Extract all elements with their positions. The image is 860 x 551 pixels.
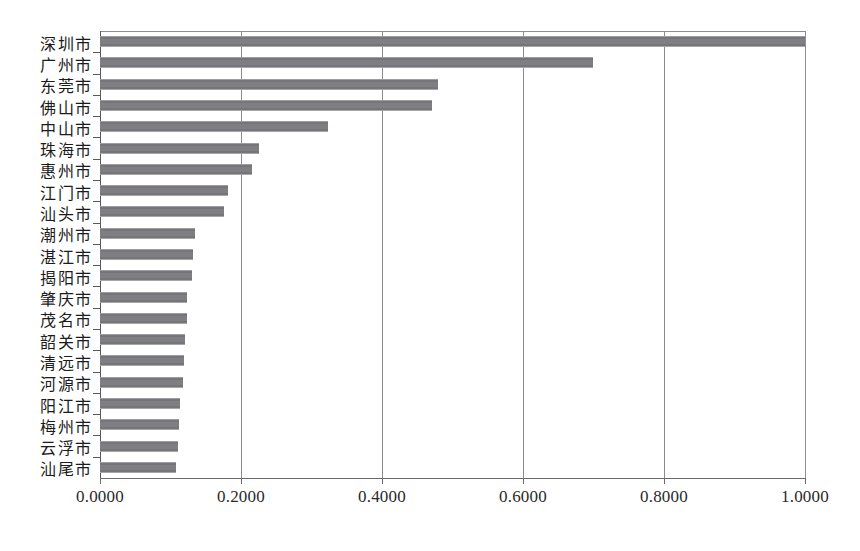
y-tick-mark <box>93 329 100 330</box>
y-tick-mark <box>93 137 100 138</box>
bar <box>100 164 252 175</box>
category-labels: 深圳市广州市东莞市佛山市中山市珠海市惠州市江门市汕头市潮州市湛江市揭阳市肇庆市茂… <box>0 0 92 551</box>
y-tick-mark <box>93 308 100 309</box>
y-tick-mark <box>93 159 100 160</box>
x-tick-mark <box>382 478 383 484</box>
y-tick-mark <box>93 265 100 266</box>
bar <box>100 79 438 90</box>
bar <box>100 228 195 239</box>
bar <box>100 377 183 388</box>
plot-border-right <box>805 31 806 478</box>
bar <box>100 398 180 409</box>
y-tick-mark <box>93 52 100 53</box>
category-label: 河源市 <box>40 371 92 395</box>
x-tick-mark <box>805 478 806 484</box>
y-tick-mark <box>93 201 100 202</box>
plot-area <box>100 31 805 478</box>
bar <box>100 313 187 324</box>
y-tick-mark <box>93 95 100 96</box>
y-tick-mark <box>93 116 100 117</box>
y-tick-mark <box>93 74 100 75</box>
bar <box>100 270 192 281</box>
y-tick-mark <box>93 414 100 415</box>
bar <box>100 355 184 366</box>
x-tick-mark <box>523 478 524 484</box>
y-tick-mark <box>93 180 100 181</box>
bar <box>100 185 228 196</box>
bar <box>100 419 179 430</box>
bar <box>100 441 178 452</box>
bar <box>100 100 432 111</box>
bar <box>100 249 193 260</box>
bar <box>100 334 185 345</box>
y-tick-mark <box>93 393 100 394</box>
x-tick-mark <box>100 478 101 484</box>
y-tick-mark <box>93 372 100 373</box>
x-tick-label: 0.8000 <box>640 487 688 507</box>
category-label: 东莞市 <box>40 73 92 97</box>
category-label: 茂名市 <box>40 307 92 331</box>
x-tick-label: 1.0000 <box>781 487 829 507</box>
category-label: 潮州市 <box>40 222 92 246</box>
x-tick-label: 0.6000 <box>499 487 547 507</box>
y-tick-mark <box>93 286 100 287</box>
x-tick-mark <box>241 478 242 484</box>
bar <box>100 292 187 303</box>
bar-chart: 0.00000.20000.40000.60000.80001.0000 深圳市… <box>0 0 860 551</box>
y-tick-mark <box>93 223 100 224</box>
x-axis-line <box>100 478 806 479</box>
category-label: 惠州市 <box>40 158 92 182</box>
x-tick-label: 0.4000 <box>358 487 406 507</box>
bar <box>100 143 259 154</box>
x-tick-label: 0.2000 <box>217 487 265 507</box>
bar <box>100 206 224 217</box>
x-tick-mark <box>664 478 665 484</box>
category-label: 汕尾市 <box>40 456 92 480</box>
y-tick-mark <box>93 244 100 245</box>
bar <box>100 462 176 473</box>
bar <box>100 121 328 132</box>
bar <box>100 36 805 47</box>
y-tick-mark <box>93 435 100 436</box>
y-tick-mark <box>93 457 100 458</box>
bar <box>100 57 593 68</box>
y-tick-mark <box>93 350 100 351</box>
